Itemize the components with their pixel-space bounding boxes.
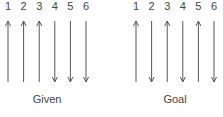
arrow-label: 6 (211, 0, 217, 12)
arrow-5-up: 5 (195, 0, 201, 82)
arrow-label: 5 (195, 0, 201, 12)
arrow-2-down: 2 (149, 0, 155, 82)
arrow-label: 4 (180, 0, 186, 12)
panel-caption: Goal (163, 93, 186, 105)
arrow-label: 3 (164, 0, 170, 12)
arrow-2-up: 2 (21, 0, 27, 82)
arrow-4-down: 4 (52, 0, 58, 82)
arrow-label: 2 (149, 0, 155, 12)
arrow-5-down: 5 (67, 0, 73, 82)
given-panel: 123456Given (5, 0, 89, 105)
goal-panel: 123456Goal (133, 0, 217, 105)
arrow-label: 6 (83, 0, 89, 12)
panel-caption: Given (33, 93, 62, 105)
arrow-6-down: 6 (211, 0, 217, 82)
arrow-label: 1 (5, 0, 11, 12)
arrow-1-up: 1 (133, 0, 139, 82)
arrow-6-down: 6 (83, 0, 89, 82)
arrow-3-up: 3 (36, 0, 42, 82)
arrow-label: 1 (133, 0, 139, 12)
arrow-3-up: 3 (164, 0, 170, 82)
arrow-label: 3 (36, 0, 42, 12)
arrow-1-up: 1 (5, 0, 11, 82)
arrow-label: 5 (67, 0, 73, 12)
arrow-label: 4 (52, 0, 58, 12)
arrow-puzzle-diagram: 123456Given 123456Goal (0, 0, 223, 117)
arrow-label: 2 (21, 0, 27, 12)
arrow-4-down: 4 (180, 0, 186, 82)
